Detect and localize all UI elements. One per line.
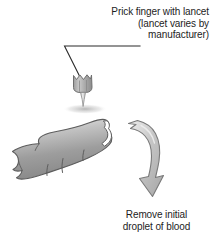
curved-arrow-graphic bbox=[129, 121, 164, 197]
lancet-shadow bbox=[63, 104, 107, 114]
callout-top-line2: (lancet varies by bbox=[138, 18, 209, 29]
lancet-graphic bbox=[74, 75, 93, 107]
callout-bottom-line2: droplet of blood bbox=[123, 221, 190, 232]
callout-top-line3: manufacturer) bbox=[148, 29, 209, 40]
finger-graphic bbox=[13, 119, 112, 179]
callout-bottom-text: Remove initial droplet of blood bbox=[104, 209, 209, 232]
leader-line bbox=[65, 46, 141, 81]
callout-top-line1: Prick finger with lancet bbox=[111, 6, 209, 17]
callout-bottom-line1: Remove initial bbox=[126, 209, 187, 220]
illustration-figure: Prick finger with lancet (lancet varies … bbox=[0, 0, 215, 247]
callout-top-text: Prick finger with lancet (lancet varies … bbox=[111, 6, 209, 41]
